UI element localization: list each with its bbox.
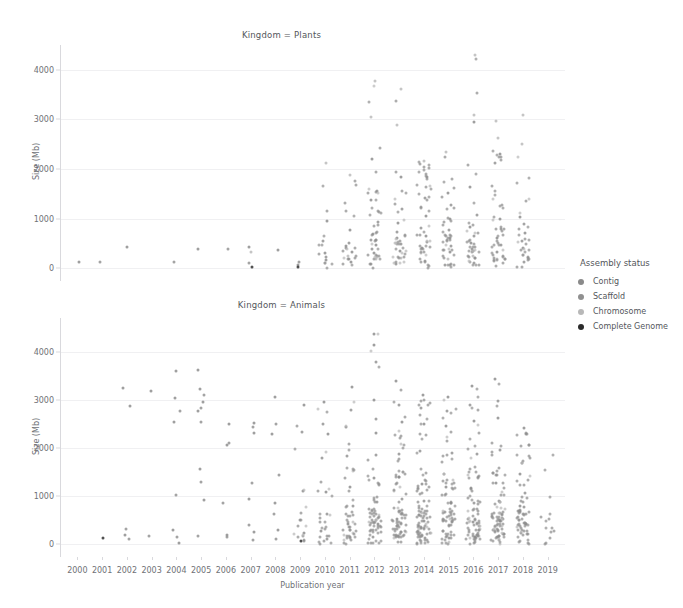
scatter-point — [392, 506, 395, 509]
scatter-point — [497, 399, 500, 402]
scatter-point — [277, 473, 280, 476]
scatter-point — [522, 483, 525, 486]
scatter-point — [349, 486, 352, 489]
scatter-point — [320, 244, 323, 247]
scatter-point — [498, 383, 501, 386]
xtick-label-2006: 2006 — [216, 566, 236, 575]
scatter-point — [528, 511, 531, 514]
scatter-point — [496, 506, 499, 509]
scatter-point — [472, 508, 475, 511]
scatter-point — [175, 494, 178, 497]
scatter-point — [376, 333, 379, 336]
scatter-point — [417, 505, 420, 508]
scatter-point — [494, 120, 497, 123]
xtick-label-2010: 2010 — [315, 566, 335, 575]
scatter-point — [445, 151, 448, 154]
scatter-point — [428, 515, 431, 518]
scatter-point — [325, 538, 328, 541]
ytick-label-3000: 3000 — [24, 395, 54, 404]
scatter-point — [522, 261, 525, 264]
scatter-point — [371, 247, 374, 250]
scatter-point — [444, 511, 447, 514]
scatter-point — [503, 494, 506, 497]
scatter-point — [478, 537, 481, 540]
scatter-point — [444, 542, 447, 545]
scatter-point — [320, 530, 323, 533]
scatter-point — [379, 540, 382, 543]
scatter-point — [326, 433, 329, 436]
xtick-label-2003: 2003 — [141, 566, 161, 575]
scatter-point — [226, 444, 229, 447]
scatter-point — [418, 192, 421, 195]
scatter-point — [275, 423, 278, 426]
scatter-point — [493, 216, 496, 219]
scatter-point — [442, 231, 445, 234]
legend-item-contig[interactable]: Contig — [578, 274, 683, 289]
scatter-point — [373, 255, 376, 258]
scatter-point — [253, 422, 256, 425]
scatter-point — [303, 489, 306, 492]
scatter-point — [349, 174, 352, 177]
scatter-point — [543, 469, 546, 472]
scatter-point — [448, 247, 451, 250]
scatter-point — [199, 387, 202, 390]
scatter-point — [447, 396, 450, 399]
scatter-point — [503, 536, 506, 539]
scatter-point — [350, 511, 353, 514]
scatter-point — [515, 266, 518, 269]
scatter-point — [494, 228, 497, 231]
xtick-mark-2019 — [548, 557, 549, 560]
scatter-point — [393, 488, 396, 491]
scatter-point — [548, 496, 551, 499]
scatter-point — [444, 155, 447, 158]
xtick-label-2009: 2009 — [290, 566, 310, 575]
scatter-point — [355, 183, 358, 186]
scatter-point — [374, 199, 377, 202]
scatter-point — [446, 191, 449, 194]
ytick-label-0: 0 — [24, 264, 54, 273]
scatter-point — [477, 423, 480, 426]
scatter-point — [351, 514, 354, 517]
scatter-point — [467, 531, 470, 534]
scatter-point — [518, 525, 521, 528]
scatter-point — [398, 429, 401, 432]
scatter-point — [477, 396, 480, 399]
scatter-point — [501, 518, 504, 521]
legend-item-chromosome[interactable]: Chromosome — [578, 304, 683, 319]
scatter-point — [467, 255, 470, 258]
scatter-point — [527, 226, 530, 229]
scatter-point — [471, 489, 474, 492]
scatter-point — [426, 532, 429, 535]
scatter-point — [345, 454, 348, 457]
scatter-point — [346, 535, 349, 538]
scatter-point — [398, 470, 401, 473]
scatter-point — [471, 385, 474, 388]
scatter-point — [544, 542, 547, 545]
scatter-point — [467, 496, 470, 499]
scatter-point — [496, 235, 499, 238]
ytick-label-4000: 4000 — [24, 347, 54, 356]
scatter-point — [401, 421, 404, 424]
scatter-point — [373, 84, 376, 87]
scatter-point — [247, 524, 250, 527]
scatter-point — [447, 514, 450, 517]
legend-item-complete-genome[interactable]: Complete Genome — [578, 319, 683, 334]
scatter-point — [378, 255, 381, 258]
scatter-point — [347, 525, 350, 528]
scatter-point — [469, 542, 472, 545]
scatter-point — [196, 409, 199, 412]
scatter-point — [422, 230, 425, 233]
scatter-point — [474, 256, 477, 259]
scatter-point — [476, 452, 479, 455]
scatter-point — [498, 540, 501, 543]
scatter-point — [249, 250, 252, 253]
scatter-point — [330, 542, 333, 545]
scatter-point — [326, 266, 329, 269]
scatter-point — [453, 187, 456, 190]
legend-item-scaffold[interactable]: Scaffold — [578, 289, 683, 304]
scatter-point — [468, 477, 471, 480]
scatter-point — [502, 234, 505, 237]
scatter-point — [350, 385, 353, 388]
scatter-point — [419, 525, 422, 528]
scatter-point — [453, 263, 456, 266]
